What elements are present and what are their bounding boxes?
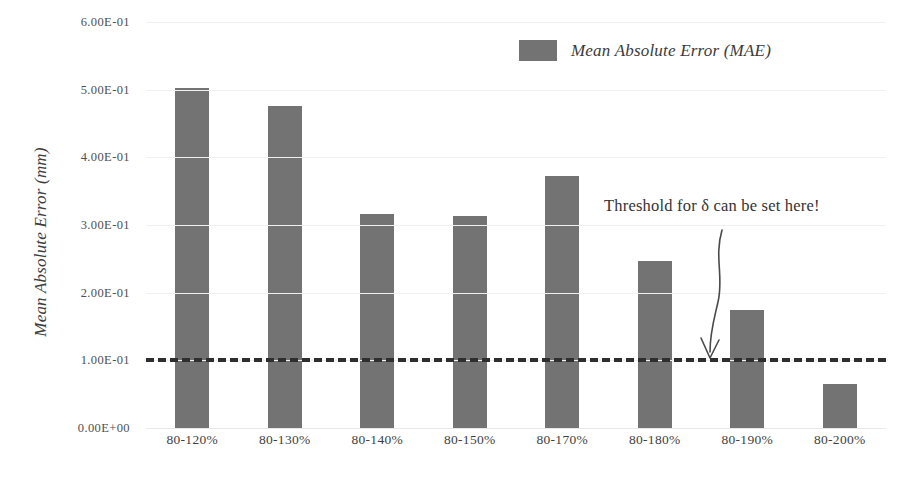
gridline — [146, 225, 886, 226]
y-tick-label: 3.00E-01 — [0, 218, 130, 233]
threshold-annotation-arrow-icon — [690, 228, 750, 363]
threshold-annotation-text: Threshold for δ can be set here! — [604, 196, 820, 216]
bar[interactable] — [823, 384, 857, 428]
gridline — [146, 293, 886, 294]
x-axis-tick-labels: 80-120%80-130%80-140%80-150%80-170%80-18… — [146, 432, 886, 458]
x-tick-label: 80-130% — [259, 432, 311, 448]
gridline — [146, 90, 886, 91]
bar[interactable] — [545, 176, 579, 428]
bar[interactable] — [453, 216, 487, 428]
threshold-line — [146, 358, 886, 362]
figure-caption — [0, 466, 911, 477]
y-tick-label: 1.00E-01 — [0, 353, 130, 368]
x-tick-label: 80-190% — [721, 432, 773, 448]
x-tick-label: 80-180% — [629, 432, 681, 448]
y-tick-label: 5.00E-01 — [0, 82, 130, 97]
chart-legend: Mean Absolute Error (MAE) — [519, 40, 771, 61]
x-tick-label: 80-150% — [444, 432, 496, 448]
x-tick-label: 80-200% — [814, 432, 866, 448]
y-tick-label: 0.00E+00 — [0, 421, 130, 436]
legend-swatch-mae — [519, 40, 557, 61]
bar[interactable] — [360, 214, 394, 429]
y-axis-tick-labels: 0.00E+001.00E-012.00E-013.00E-014.00E-01… — [0, 22, 130, 428]
gridline — [146, 157, 886, 158]
x-tick-label: 80-120% — [166, 432, 218, 448]
bar[interactable] — [268, 106, 302, 428]
x-tick-label: 80-170% — [536, 432, 588, 448]
bar[interactable] — [638, 261, 672, 428]
y-tick-label: 6.00E-01 — [0, 15, 130, 30]
gridline — [146, 22, 886, 23]
bar[interactable] — [175, 88, 209, 428]
y-tick-label: 4.00E-01 — [0, 150, 130, 165]
legend-label-mae: Mean Absolute Error (MAE) — [571, 41, 771, 61]
plot-area — [146, 22, 886, 428]
axis-baseline — [146, 428, 886, 429]
y-tick-label: 2.00E-01 — [0, 285, 130, 300]
x-tick-label: 80-140% — [351, 432, 403, 448]
chart-figure: Mean Absolute Error (mm) 0.00E+001.00E-0… — [0, 0, 911, 477]
